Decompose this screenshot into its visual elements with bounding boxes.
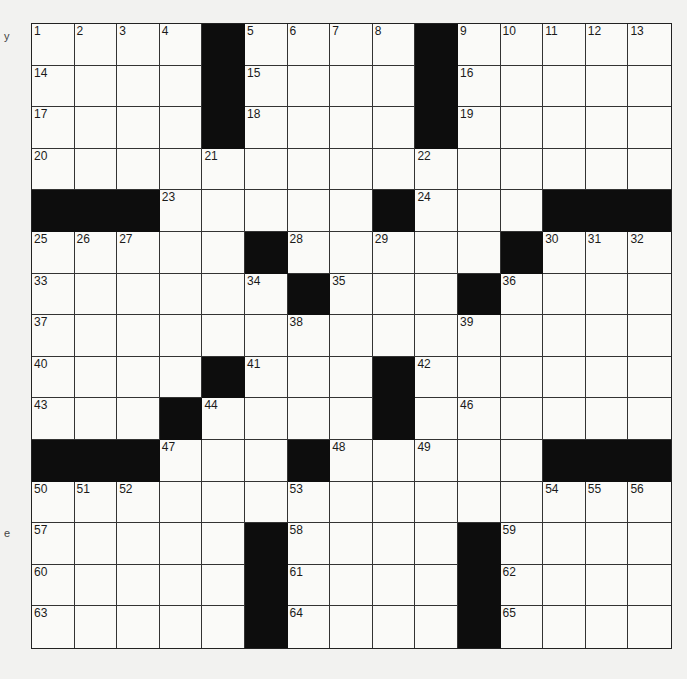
grid-cell[interactable] — [117, 606, 160, 648]
grid-cell[interactable] — [458, 357, 501, 399]
grid-cell[interactable] — [330, 149, 373, 191]
grid-cell[interactable]: 35 — [330, 274, 373, 316]
grid-cell[interactable] — [501, 107, 544, 149]
grid-cell[interactable] — [202, 274, 245, 316]
grid-cell[interactable] — [160, 606, 203, 648]
grid-cell[interactable] — [373, 107, 416, 149]
grid-cell[interactable] — [117, 107, 160, 149]
grid-cell[interactable] — [202, 565, 245, 607]
grid-cell[interactable] — [458, 190, 501, 232]
grid-cell[interactable] — [330, 107, 373, 149]
grid-cell[interactable]: 5 — [245, 24, 288, 66]
grid-cell[interactable]: 21 — [202, 149, 245, 191]
grid-cell[interactable] — [501, 315, 544, 357]
grid-cell[interactable] — [202, 190, 245, 232]
grid-cell[interactable]: 30 — [543, 232, 586, 274]
grid-cell[interactable]: 24 — [415, 190, 458, 232]
grid-cell[interactable] — [160, 565, 203, 607]
grid-cell[interactable] — [160, 523, 203, 565]
grid-cell[interactable] — [586, 357, 629, 399]
grid-cell[interactable] — [628, 523, 671, 565]
grid-cell[interactable] — [501, 482, 544, 524]
grid-cell[interactable]: 50 — [32, 482, 75, 524]
grid-cell[interactable] — [117, 565, 160, 607]
grid-cell[interactable]: 46 — [458, 398, 501, 440]
grid-cell[interactable]: 12 — [586, 24, 629, 66]
grid-cell[interactable] — [501, 398, 544, 440]
grid-cell[interactable]: 22 — [415, 149, 458, 191]
grid-cell[interactable]: 26 — [75, 232, 118, 274]
grid-cell[interactable]: 59 — [501, 523, 544, 565]
grid-cell[interactable] — [586, 565, 629, 607]
grid-cell[interactable] — [543, 523, 586, 565]
grid-cell[interactable] — [288, 357, 331, 399]
grid-cell[interactable] — [75, 357, 118, 399]
grid-cell[interactable] — [373, 606, 416, 648]
grid-cell[interactable]: 28 — [288, 232, 331, 274]
grid-cell[interactable] — [75, 398, 118, 440]
grid-cell[interactable] — [373, 565, 416, 607]
grid-cell[interactable] — [202, 315, 245, 357]
grid-cell[interactable] — [373, 66, 416, 108]
grid-cell[interactable] — [586, 274, 629, 316]
grid-cell[interactable] — [501, 190, 544, 232]
grid-cell[interactable] — [75, 565, 118, 607]
grid-cell[interactable] — [373, 315, 416, 357]
grid-cell[interactable] — [245, 482, 288, 524]
grid-cell[interactable]: 54 — [543, 482, 586, 524]
grid-cell[interactable] — [202, 523, 245, 565]
grid-cell[interactable]: 25 — [32, 232, 75, 274]
grid-cell[interactable] — [75, 523, 118, 565]
grid-cell[interactable]: 32 — [628, 232, 671, 274]
grid-cell[interactable] — [586, 523, 629, 565]
grid-cell[interactable] — [288, 190, 331, 232]
grid-cell[interactable] — [117, 66, 160, 108]
grid-cell[interactable] — [628, 315, 671, 357]
grid-cell[interactable]: 56 — [628, 482, 671, 524]
grid-cell[interactable]: 34 — [245, 274, 288, 316]
grid-cell[interactable] — [330, 523, 373, 565]
grid-cell[interactable]: 53 — [288, 482, 331, 524]
grid-cell[interactable]: 16 — [458, 66, 501, 108]
grid-cell[interactable] — [415, 565, 458, 607]
grid-cell[interactable] — [75, 274, 118, 316]
grid-cell[interactable] — [75, 66, 118, 108]
grid-cell[interactable]: 33 — [32, 274, 75, 316]
grid-cell[interactable]: 60 — [32, 565, 75, 607]
grid-cell[interactable] — [117, 274, 160, 316]
grid-cell[interactable] — [75, 107, 118, 149]
grid-cell[interactable]: 47 — [160, 440, 203, 482]
grid-cell[interactable] — [75, 149, 118, 191]
grid-cell[interactable] — [415, 398, 458, 440]
grid-cell[interactable]: 51 — [75, 482, 118, 524]
grid-cell[interactable] — [586, 149, 629, 191]
grid-cell[interactable] — [501, 149, 544, 191]
grid-cell[interactable]: 61 — [288, 565, 331, 607]
grid-cell[interactable] — [543, 66, 586, 108]
grid-cell[interactable] — [245, 149, 288, 191]
grid-cell[interactable] — [543, 107, 586, 149]
grid-cell[interactable] — [330, 606, 373, 648]
grid-cell[interactable] — [628, 66, 671, 108]
grid-cell[interactable] — [330, 482, 373, 524]
grid-cell[interactable]: 27 — [117, 232, 160, 274]
grid-cell[interactable]: 7 — [330, 24, 373, 66]
grid-cell[interactable] — [330, 357, 373, 399]
grid-cell[interactable] — [458, 232, 501, 274]
grid-cell[interactable] — [245, 315, 288, 357]
grid-cell[interactable] — [330, 565, 373, 607]
grid-cell[interactable] — [415, 482, 458, 524]
grid-cell[interactable] — [415, 274, 458, 316]
grid-cell[interactable]: 20 — [32, 149, 75, 191]
grid-cell[interactable]: 10 — [501, 24, 544, 66]
grid-cell[interactable] — [415, 606, 458, 648]
grid-cell[interactable]: 39 — [458, 315, 501, 357]
grid-cell[interactable] — [628, 357, 671, 399]
grid-cell[interactable] — [543, 274, 586, 316]
grid-cell[interactable] — [245, 190, 288, 232]
grid-cell[interactable] — [117, 357, 160, 399]
grid-cell[interactable] — [543, 149, 586, 191]
grid-cell[interactable]: 36 — [501, 274, 544, 316]
grid-cell[interactable] — [202, 606, 245, 648]
grid-cell[interactable]: 52 — [117, 482, 160, 524]
